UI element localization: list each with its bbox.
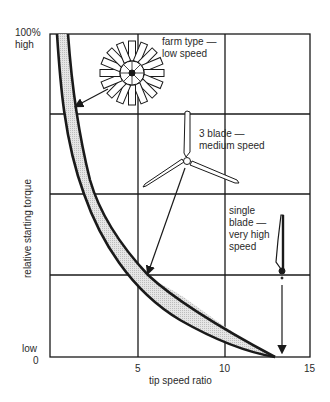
farm-label-line2: low speed xyxy=(162,48,207,60)
y-tick-100: 100% xyxy=(15,27,41,39)
three-blade-arrow xyxy=(148,168,185,273)
torque-band xyxy=(57,34,275,357)
farm-arrow xyxy=(76,89,108,106)
three-blade-label-line2: medium speed xyxy=(199,140,265,152)
chart-canvas xyxy=(0,0,330,402)
three-blade-label-line1: 3 blade — xyxy=(199,128,245,140)
single-blade-label-line2: blade — xyxy=(229,217,266,229)
farm-label-line1: farm type — xyxy=(162,36,216,48)
single-blade-icon xyxy=(276,215,285,279)
single-blade-label-line1: single xyxy=(229,205,255,217)
y-axis-label: relative starting torque xyxy=(22,179,33,278)
x-tick-5: 5 xyxy=(135,363,141,375)
x-axis-label: tip speed ratio xyxy=(149,375,212,387)
y-tick-0: 0 xyxy=(33,355,39,367)
x-tick-15: 15 xyxy=(304,363,315,375)
single-blade-label-line4: speed xyxy=(229,241,256,253)
y-tick-low: low xyxy=(22,343,37,355)
farm-windmill-icon xyxy=(100,41,164,105)
y-tick-high: high xyxy=(15,39,34,51)
single-blade-label-line3: very high xyxy=(229,229,270,241)
x-tick-10: 10 xyxy=(219,363,230,375)
